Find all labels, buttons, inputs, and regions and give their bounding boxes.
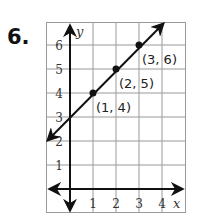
point-label-3-6: (3, 6) (142, 52, 177, 67)
svg-text:4: 4 (55, 87, 63, 101)
point-1-4 (90, 90, 97, 97)
svg-text:6: 6 (55, 39, 63, 53)
svg-text:2: 2 (112, 197, 120, 211)
y-axis-label: y (75, 24, 84, 39)
coordinate-graph: 6 5 4 3 2 1 1 2 3 4 x y (1, 4) (2, 5) (3… (0, 0, 203, 223)
svg-text:1: 1 (89, 197, 97, 211)
svg-text:4: 4 (158, 197, 166, 211)
svg-text:2: 2 (55, 135, 63, 149)
svg-text:3: 3 (55, 111, 63, 125)
svg-text:3: 3 (135, 197, 143, 211)
point-labels: (1, 4) (2, 5) (3, 6) (96, 52, 177, 115)
x-tick-labels: 1 2 3 4 (89, 197, 166, 211)
svg-text:5: 5 (55, 63, 63, 77)
point-2-5 (113, 66, 120, 73)
point-label-1-4: (1, 4) (96, 100, 131, 115)
point-3-6 (136, 42, 143, 49)
svg-text:1: 1 (55, 159, 63, 173)
grid (46, 22, 186, 213)
x-axis-label: x (173, 196, 181, 211)
point-label-2-5: (2, 5) (119, 76, 154, 91)
y-tick-labels: 6 5 4 3 2 1 (55, 39, 63, 173)
